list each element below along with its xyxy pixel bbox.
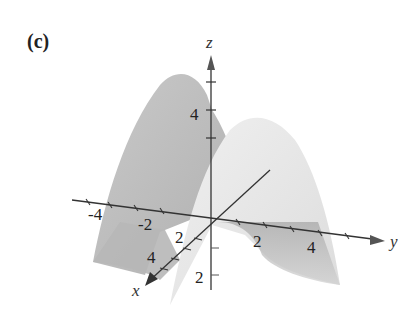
y-tick-neg4: -4 <box>88 205 103 224</box>
y-axis-label: y <box>388 232 398 251</box>
z-axis-label: z <box>205 33 213 52</box>
z-tick-2: 2 <box>195 268 204 287</box>
x-axis-label: x <box>131 281 140 300</box>
z-tick-4: 4 <box>190 105 199 124</box>
x-tick-2: 2 <box>175 228 184 247</box>
x-tick-4: 4 <box>147 248 156 267</box>
y-tick-neg2: -2 <box>138 215 152 234</box>
y-tick-4: 4 <box>307 238 316 257</box>
y-tick-2: 2 <box>253 232 262 251</box>
surface-plot: 4 2 -4 -2 2 4 2 4 z y x <box>0 0 414 322</box>
